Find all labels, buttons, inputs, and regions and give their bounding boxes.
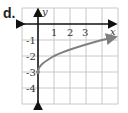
start-point bbox=[36, 70, 40, 74]
svg-text:x: x bbox=[110, 26, 116, 37]
svg-text:2: 2 bbox=[67, 27, 73, 38]
svg-text:3: 3 bbox=[82, 27, 88, 38]
svg-text:-2: -2 bbox=[26, 51, 36, 62]
curve bbox=[38, 37, 116, 72]
grid bbox=[22, 8, 118, 104]
svg-text:-1: -1 bbox=[26, 35, 36, 46]
svg-text:-3: -3 bbox=[26, 67, 36, 78]
svg-text:-4: -4 bbox=[26, 83, 36, 94]
svg-text:y: y bbox=[41, 6, 48, 17]
svg-text:1: 1 bbox=[51, 27, 57, 38]
graph: y x 1 2 3 -1 -2 -3 -4 bbox=[0, 0, 128, 113]
